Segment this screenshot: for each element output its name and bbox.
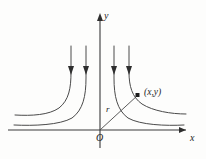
point-coordinate-label: (x,y) bbox=[144, 88, 161, 98]
y-axis-label: y bbox=[104, 11, 108, 21]
arrow-down-icon-inner-left bbox=[83, 66, 89, 75]
field-curve-outer-right bbox=[129, 46, 186, 114]
origin-label: O bbox=[96, 133, 103, 143]
field-curve-outer-left bbox=[15, 46, 71, 115]
figure-container: y x O r (x,y) bbox=[0, 0, 206, 159]
radius-label: r bbox=[106, 105, 110, 114]
y-axis-arrow-icon bbox=[97, 13, 103, 21]
x-axis-label: x bbox=[190, 133, 194, 143]
arrow-down-icon-outer-left bbox=[68, 66, 74, 75]
point-marker-xy bbox=[136, 93, 140, 97]
field-curve-inner-left bbox=[14, 46, 86, 125]
arrow-down-icon-inner-right bbox=[111, 66, 117, 75]
arrow-down-icon-outer-right bbox=[126, 66, 132, 75]
x-axis-arrow-icon bbox=[179, 127, 186, 133]
